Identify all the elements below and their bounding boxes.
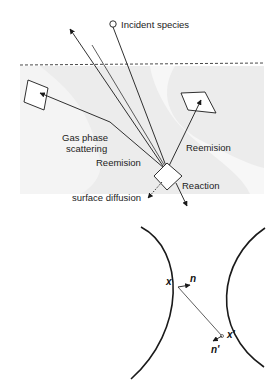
incident-species-circle <box>110 21 116 27</box>
surface-region <box>20 66 264 194</box>
n-label: n <box>190 273 196 284</box>
reemision-left-label: Reemision <box>96 157 141 168</box>
x-label: x <box>165 276 172 287</box>
left-curve <box>131 227 173 379</box>
normal-n-arrow <box>178 285 190 287</box>
incident-species-label: Incident species <box>121 19 189 30</box>
right-curve <box>227 228 265 367</box>
xprime-label: x' <box>226 329 236 340</box>
reemision-right-label: Reemision <box>186 142 231 153</box>
gas-phase-label-2: scattering <box>66 143 107 154</box>
x-to-xprime-line <box>178 287 222 336</box>
surface-diffusion-label: surface diffusion <box>72 192 141 203</box>
reaction-label: Reaction <box>182 180 220 191</box>
diagram-canvas: Incident species Gas phase scattering Re… <box>0 0 278 382</box>
normal-nprime-arrow <box>213 336 222 341</box>
nprime-label: n' <box>211 344 220 355</box>
gas-surface-boundary <box>20 63 265 65</box>
gas-phase-label-1: Gas phase <box>62 132 108 143</box>
